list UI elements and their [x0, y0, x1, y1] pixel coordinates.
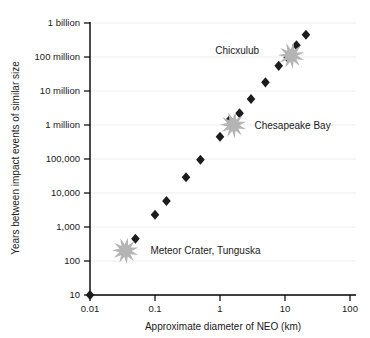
- x-tick-label: 100: [342, 303, 358, 314]
- x-axis-ticks: [90, 295, 350, 301]
- annotation-markers: [112, 42, 305, 264]
- horizontal-gridlines: [90, 23, 356, 261]
- impact-frequency-scatter-chart: 1 billion 100 million 10 million 1 milli…: [0, 0, 370, 338]
- data-point-diamond: [274, 61, 283, 71]
- y-axis-ticks: [84, 23, 90, 295]
- y-tick-label: 1,000: [56, 221, 80, 232]
- y-tick-label: 10: [69, 289, 80, 300]
- data-point-diamond: [235, 108, 244, 118]
- data-point-diamond: [261, 77, 270, 87]
- data-point-diamond: [151, 210, 160, 220]
- annotation-label: Meteor Crater, Tunguska: [150, 245, 260, 256]
- annotation-labels: Meteor Crater, TunguskaChesapeake BayChi…: [150, 45, 330, 257]
- x-axis-tick-labels: 0.01 0.1 1 10 100: [81, 303, 358, 314]
- data-point-diamond: [86, 290, 95, 300]
- data-markers: [86, 30, 311, 300]
- data-point-diamond: [302, 30, 311, 40]
- y-tick-label: 1 million: [45, 119, 80, 130]
- y-tick-label: 100,000: [46, 153, 80, 164]
- y-tick-label: 100 million: [35, 51, 80, 62]
- y-tick-label: 100: [64, 255, 80, 266]
- chart-page: 1 billion 100 million 10 million 1 milli…: [0, 0, 370, 338]
- x-axis-title: Approximate diameter of NEO (km): [145, 321, 301, 332]
- y-tick-label: 1 billion: [48, 17, 80, 28]
- x-tick-label: 10: [280, 303, 291, 314]
- x-tick-label: 0.1: [148, 303, 161, 314]
- annotation-label: Chesapeake Bay: [255, 120, 331, 131]
- annotation-label: Chicxulub: [215, 45, 259, 56]
- y-tick-label: 10 million: [40, 85, 80, 96]
- data-point-diamond: [162, 196, 171, 206]
- data-point-diamond: [247, 94, 256, 104]
- y-tick-label: 10,000: [51, 187, 80, 198]
- data-point-diamond: [182, 172, 191, 182]
- data-point-diamond: [131, 234, 140, 244]
- data-point-diamond: [196, 155, 205, 165]
- x-tick-label: 0.01: [81, 303, 100, 314]
- y-axis-title: Years between impact events of similar s…: [10, 61, 21, 255]
- x-tick-label: 1: [217, 303, 222, 314]
- y-axis-tick-labels: 1 billion 100 million 10 million 1 milli…: [35, 17, 80, 300]
- data-point-diamond: [216, 132, 225, 142]
